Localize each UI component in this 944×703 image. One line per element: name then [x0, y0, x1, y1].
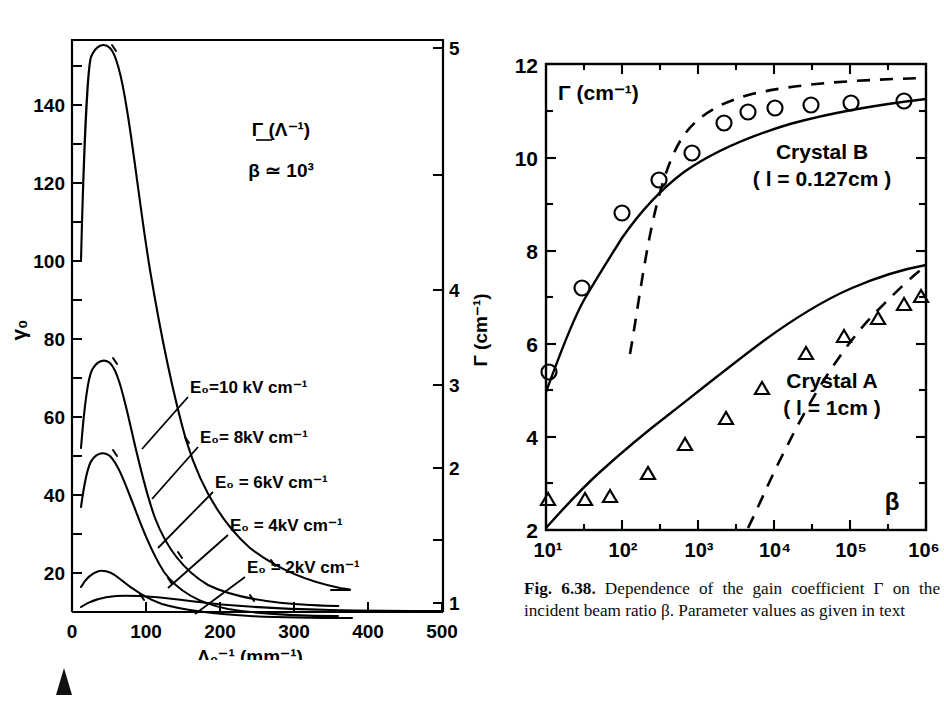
curve-label-6kv: E₀ = 6kV cm⁻¹: [215, 473, 328, 492]
right-xaxis-title: β: [885, 488, 900, 515]
left-yaxis-tick-labels: 20 40 60 80 100 120 140: [33, 95, 65, 584]
left-panel-right-axis-ticks: [433, 48, 443, 603]
crystal-b-solid-fit: [546, 99, 926, 392]
svg-text:4: 4: [449, 280, 460, 301]
left-yaxis-ticks: [72, 66, 82, 573]
svg-text:2: 2: [449, 458, 460, 479]
svg-text:Γ (Λ⁻¹): Γ (Λ⁻¹): [252, 119, 310, 140]
svg-text:β ≃ 10³: β ≃ 10³: [248, 160, 314, 181]
svg-text:5: 5: [449, 38, 460, 59]
svg-text:12: 12: [515, 54, 538, 77]
svg-text:300: 300: [278, 621, 310, 642]
svg-text:10³: 10³: [685, 539, 714, 561]
right-yaxis-title: Γ (cm⁻¹): [558, 81, 639, 104]
svg-text:400: 400: [352, 621, 384, 642]
figure-root: 20 40 60 80 100 120 140 1 2 3 4 5: [0, 0, 944, 703]
left-xaxis-title: Λ₀⁻¹ (mm⁻¹): [197, 646, 303, 660]
crystal-b-label-line2: ( l = 0.127cm ): [753, 167, 891, 190]
left-yaxis-title: γ₀: [7, 319, 30, 340]
svg-text:500: 500: [426, 621, 458, 642]
svg-text:0: 0: [67, 621, 78, 642]
svg-text:100: 100: [130, 621, 162, 642]
svg-text:80: 80: [44, 329, 65, 350]
caption-line-1: Dependence of the gain: [605, 579, 782, 598]
right-xaxis-ticks: [546, 64, 926, 530]
svg-text:10⁶: 10⁶: [908, 539, 939, 561]
right-yaxis-tick-labels: 2 4 6 8 10 12: [515, 54, 539, 542]
svg-text:20: 20: [44, 563, 65, 584]
right-yaxis-ticks: [546, 64, 926, 530]
svg-text:120: 120: [33, 173, 65, 194]
right-plot-frame: [546, 64, 926, 530]
black-triangle-marker: [56, 668, 72, 695]
curve-label-2kv: E₀ = 2kV cm⁻¹: [247, 558, 360, 577]
crystal-a-label-line1: Crystal A: [786, 369, 877, 392]
crystal-b-label-line1: Crystal B: [776, 140, 868, 163]
left-panel-annotation: Γ (Λ⁻¹) β ≃ 10³: [248, 119, 314, 181]
right-xaxis-tick-labels: 10¹ 10² 10³ 10⁴ 10⁵ 10⁶: [534, 539, 940, 561]
left-panel-right-axis-tick-labels: 1 2 3 4 5: [449, 38, 460, 614]
svg-text:100: 100: [33, 251, 65, 272]
crystal-b-dashed-theory: [630, 78, 926, 354]
caption-line-3: β. Parameter values as given in text: [661, 601, 905, 620]
crystal-a-label-line2: ( l = 1cm ): [783, 396, 880, 419]
curve-label-8kv: E₀= 8kV cm⁻¹: [200, 428, 308, 447]
left-panel-chart: 20 40 60 80 100 120 140 1 2 3 4 5: [0, 0, 500, 660]
svg-text:10²: 10²: [609, 539, 638, 561]
curve-label-4kv: E₀ = 4kV cm⁻¹: [230, 516, 343, 535]
svg-text:3: 3: [449, 375, 460, 396]
crystal-b-data-points: [542, 94, 912, 380]
svg-text:200: 200: [204, 621, 236, 642]
figure-number: Fig. 6.38.: [524, 579, 596, 598]
svg-text:60: 60: [44, 407, 65, 428]
left-xaxis-tick-labels: 0 100 200 300 400 500: [67, 621, 458, 642]
svg-text:40: 40: [44, 485, 65, 506]
svg-text:140: 140: [33, 95, 65, 116]
svg-text:10⁴: 10⁴: [759, 539, 791, 561]
figure-caption: Fig. 6.38. Dependence of the gain coeffi…: [524, 578, 940, 621]
right-panel-chart: 2 4 6 8 10 12: [500, 20, 944, 580]
curve-e0-2kv: [81, 596, 443, 611]
svg-text:1: 1: [449, 593, 460, 614]
left-panel-right-axis-title: Γ (cm⁻¹): [470, 293, 491, 366]
svg-text:6: 6: [526, 333, 538, 356]
curve-label-10kv: E₀=10 kV cm⁻¹: [190, 378, 308, 397]
svg-text:10¹: 10¹: [534, 539, 563, 561]
svg-text:10: 10: [515, 147, 538, 170]
svg-text:4: 4: [526, 426, 538, 449]
svg-text:10⁵: 10⁵: [835, 539, 867, 561]
svg-text:8: 8: [526, 240, 538, 263]
